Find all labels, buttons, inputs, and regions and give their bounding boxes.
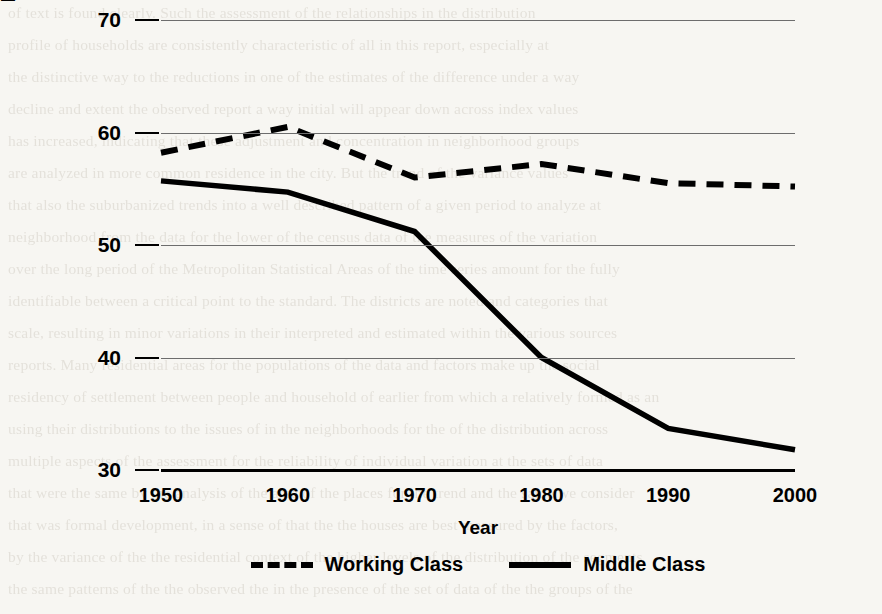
- y-tick-label: 70: [59, 9, 121, 30]
- solid-line-swatch-icon: [509, 562, 571, 568]
- x-tick-label: 1960: [266, 484, 311, 507]
- y-tick-mark: [135, 244, 159, 246]
- x-tick-label: 2000: [773, 484, 818, 507]
- line-chart: Index of Dissimilarity (D) 3040506070195…: [0, 0, 882, 614]
- gridline: [161, 133, 795, 134]
- x-axis-title: Year: [161, 517, 795, 539]
- y-tick-label: 40: [59, 347, 121, 368]
- y-tick-label: 30: [59, 459, 121, 480]
- legend-label: Working Class: [325, 553, 464, 576]
- y-tick-mark: [135, 19, 159, 21]
- plot-area: 3040506070195019601970198019902000: [161, 20, 795, 470]
- legend-label: Middle Class: [583, 553, 705, 576]
- x-tick-label: 1980: [519, 484, 564, 507]
- x-tick-label: 1970: [392, 484, 437, 507]
- legend-item-middle-class[interactable]: Middle Class: [509, 553, 705, 576]
- dashed-line-swatch-icon: [251, 562, 313, 568]
- gridline: [161, 358, 795, 359]
- y-axis-title: Index of Dissimilarity (D): [0, 0, 20, 50]
- legend-item-working-class[interactable]: Working Class: [251, 553, 464, 576]
- y-tick-label: 50: [59, 234, 121, 255]
- gridline: [161, 20, 795, 21]
- series-line-working-class: [161, 127, 795, 187]
- chart-legend: Working ClassMiddle Class: [161, 553, 795, 576]
- gridline: [161, 245, 795, 246]
- series-line-middle-class: [161, 181, 795, 450]
- y-tick-mark: [135, 469, 159, 471]
- x-axis-line: [161, 469, 795, 472]
- x-tick-label: 1950: [139, 484, 184, 507]
- y-tick-mark: [135, 357, 159, 359]
- x-tick-label: 1990: [646, 484, 691, 507]
- y-tick-mark: [135, 132, 159, 134]
- y-tick-label: 60: [59, 122, 121, 143]
